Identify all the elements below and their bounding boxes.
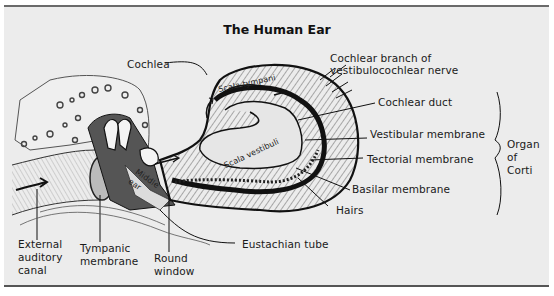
label-cochlea: Cochlea xyxy=(127,58,170,70)
label-tectorial-membrane: Tectorial membrane xyxy=(367,153,474,165)
label-vestibular-membrane: Vestibular membrane xyxy=(370,128,485,140)
label-hairs: Hairs xyxy=(336,204,364,216)
label-cochlear-duct: Cochlear duct xyxy=(378,96,452,108)
label-tympanic-membrane: Tympanic membrane xyxy=(80,242,138,268)
label-basilar-membrane: Basilar membrane xyxy=(352,183,450,195)
label-eustachian-tube: Eustachian tube xyxy=(242,238,328,250)
label-round-window: Round window xyxy=(154,252,194,278)
label-cochlear-branch-nerve: Cochlear branch of vestibulocochlear ner… xyxy=(330,52,458,76)
label-organ-of-corti: Organ of Corti xyxy=(507,138,540,177)
label-external-auditory-canal: External auditory canal xyxy=(18,238,63,277)
